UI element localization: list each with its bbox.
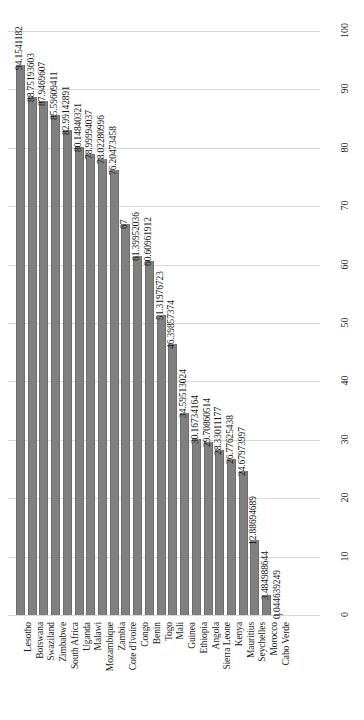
category-label: Angola <box>212 622 221 649</box>
category-label: Mozambique <box>106 622 115 671</box>
y-tick-label-80: 80 <box>339 133 350 161</box>
bar[interactable] <box>239 471 248 615</box>
y-tick-label-100: 100 <box>339 17 350 45</box>
category-label: Ethiopia <box>200 622 209 653</box>
category-label: Togo <box>165 622 174 641</box>
category-label: Congo <box>141 622 150 647</box>
bar-value-label: 30.16734164 <box>191 395 200 444</box>
bar-value-label: 85.59609411 <box>50 72 59 120</box>
bar-value-label: 78.02280996 <box>97 116 106 165</box>
bar-value-label: 67 <box>120 219 129 228</box>
bar-value-label: 60.60961912 <box>144 217 153 266</box>
category-label: Guinea <box>188 622 197 649</box>
bar-value-label: 88.75193603 <box>27 53 36 102</box>
bar-value-label: 51.31976723 <box>156 272 165 321</box>
y-tick-label-50: 50 <box>339 309 350 337</box>
y-tick-label-0: 0 <box>339 601 350 629</box>
bar[interactable] <box>16 65 25 615</box>
bar-value-label: 94.1541182 <box>15 26 24 70</box>
category-label: Zimbabwe <box>59 622 68 662</box>
bar[interactable] <box>133 256 142 615</box>
y-axis: 0102030405060708090100 <box>330 0 364 620</box>
category-label: Mauritius <box>247 622 256 658</box>
y-tick-label-70: 70 <box>339 192 350 220</box>
bar[interactable] <box>250 540 259 615</box>
bar[interactable] <box>168 344 177 615</box>
y-tick-label-60: 60 <box>339 250 350 278</box>
bar-value-label: 26.77625438 <box>226 415 235 464</box>
bar[interactable] <box>180 413 189 615</box>
category-label: Benin <box>153 622 162 644</box>
bar-value-label: 34.59513024 <box>179 369 188 418</box>
category-label: Uganda <box>83 622 92 651</box>
category-label: South Africa <box>71 622 80 669</box>
bar-value-label: 29.70860514 <box>203 398 212 447</box>
bar-value-label: 78.99994037 <box>85 110 94 159</box>
bar-value-label: 46.39857374 <box>167 300 176 349</box>
bar[interactable] <box>75 147 84 615</box>
y-tick-label-30: 30 <box>339 425 350 453</box>
bar[interactable] <box>145 261 154 615</box>
bar[interactable] <box>192 439 201 615</box>
bar[interactable] <box>121 224 130 615</box>
bar[interactable] <box>157 315 166 615</box>
category-label: Swaziland <box>47 622 56 661</box>
x-axis-category-labels: LesothoBotswanaSwazilandZimbabweSouth Af… <box>0 620 330 720</box>
y-tick-label-40: 40 <box>339 367 350 395</box>
bar-value-label: 87.9469607 <box>38 62 47 106</box>
gridline-100 <box>8 31 320 32</box>
bar[interactable] <box>98 159 107 615</box>
category-label: Lesotho <box>24 622 33 652</box>
bar[interactable] <box>39 101 48 615</box>
bar[interactable] <box>86 154 95 615</box>
bar-value-label: 80.14840321 <box>74 103 83 152</box>
category-label: Kenya <box>235 622 244 646</box>
bar[interactable] <box>204 442 213 615</box>
y-tick-label-90: 90 <box>339 75 350 103</box>
category-label: Malawi <box>94 622 103 650</box>
bar-value-label: 61.39952036 <box>132 213 141 262</box>
bar[interactable] <box>63 130 72 615</box>
category-label: Zambia <box>118 622 127 650</box>
bar[interactable] <box>110 170 119 615</box>
bar[interactable] <box>215 450 224 615</box>
category-label: Cabo Verde <box>282 622 291 665</box>
y-tick-label-10: 10 <box>339 542 350 570</box>
bar-chart: 94.154118288.7519360387.946960785.596094… <box>0 0 364 720</box>
bar[interactable] <box>227 459 236 615</box>
bar[interactable] <box>51 115 60 615</box>
category-label: Botswana <box>36 622 45 659</box>
category-label: Seychelles <box>258 622 267 662</box>
category-label: Mali <box>176 622 185 640</box>
bar-value-label: 28.33011177 <box>214 406 223 454</box>
bar-value-label: 24.67973997 <box>238 427 247 476</box>
bar-value-label: 76.20473458 <box>109 126 118 175</box>
bar-value-label: 82.99142891 <box>62 87 71 136</box>
y-tick-label-20: 20 <box>339 484 350 512</box>
category-label: Morocco <box>270 622 279 656</box>
bar-value-label: 12.88694689 <box>249 496 258 545</box>
category-label: Cote d'Ivoire <box>129 622 138 670</box>
bar-value-label: 0.044639249 <box>273 570 282 619</box>
bar-value-label: 3.484988644 <box>261 551 270 600</box>
category-label: Sierra Leone <box>223 622 232 670</box>
bar[interactable] <box>28 97 37 615</box>
plot-area: 94.154118288.7519360387.946960785.596094… <box>0 0 330 620</box>
